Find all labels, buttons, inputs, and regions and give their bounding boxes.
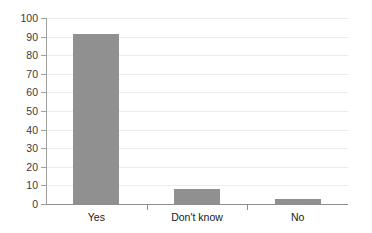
y-tick-mark	[41, 111, 46, 112]
bar	[174, 189, 220, 204]
y-tick-mark	[41, 167, 46, 168]
y-tick-label: 10	[26, 180, 38, 190]
bar	[73, 34, 119, 204]
gridline	[46, 18, 348, 19]
y-tick-label: 40	[26, 125, 38, 135]
y-tick-label: 50	[26, 106, 38, 116]
plot-area	[46, 18, 348, 204]
x-tick-mark	[147, 205, 148, 210]
y-tick-mark	[41, 74, 46, 75]
y-tick-label: 90	[26, 32, 38, 42]
y-tick-label: 80	[26, 50, 38, 60]
x-tick-label: Yes	[88, 211, 105, 223]
y-tick-mark	[41, 204, 46, 205]
y-tick-label: 70	[26, 69, 38, 79]
y-tick-mark	[41, 92, 46, 93]
y-tick-label: 0	[32, 199, 38, 209]
bar-chart: 0102030405060708090100 YesDon't knowNo	[0, 0, 372, 233]
x-tick-label: Don't know	[171, 211, 223, 223]
y-tick-mark	[41, 148, 46, 149]
y-tick-mark	[41, 37, 46, 38]
y-tick-mark	[41, 130, 46, 131]
y-tick-mark	[41, 18, 46, 19]
y-tick-mark	[41, 185, 46, 186]
y-tick-label: 60	[26, 87, 38, 97]
y-tick-label: 20	[26, 162, 38, 172]
y-tick-mark	[41, 55, 46, 56]
y-tick-label: 30	[26, 143, 38, 153]
y-tick-label: 100	[20, 13, 38, 23]
x-tick-label: No	[291, 211, 304, 223]
x-axis-line	[46, 204, 348, 205]
x-tick-mark	[247, 205, 248, 210]
y-axis-line	[46, 18, 47, 205]
